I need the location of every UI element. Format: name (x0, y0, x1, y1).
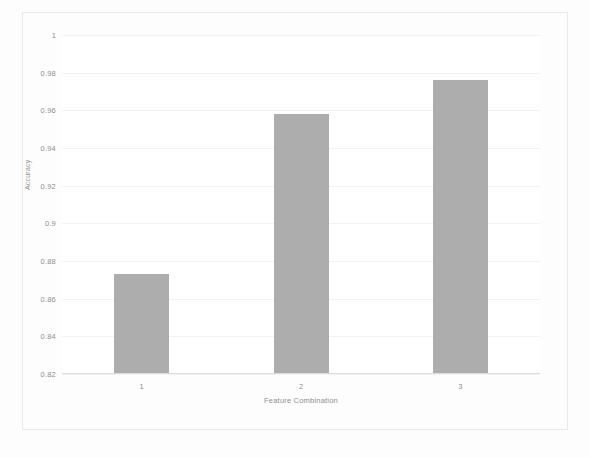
y-tick-label: 0.98 (41, 68, 56, 77)
y-tick-label: 0.86 (41, 294, 56, 303)
gridline (62, 374, 540, 375)
y-tick-label: 0.9 (45, 219, 56, 228)
x-tick-label: 1 (140, 382, 144, 391)
x-tick-label: 2 (299, 382, 303, 391)
x-tick-label: 3 (458, 382, 462, 391)
plot-area (62, 35, 540, 374)
bar (114, 274, 169, 374)
x-axis-title: Feature Combination (62, 396, 540, 405)
bar (274, 114, 329, 374)
gridline (62, 35, 540, 36)
y-tick-label: 1 (52, 31, 56, 40)
y-tick-label: 0.94 (41, 144, 56, 153)
figure-canvas: SVM(Support Vector Machine) Accuracy 10.… (0, 0, 590, 457)
y-axis-tick-labels: 10.980.960.940.920.90.880.860.840.82 (28, 35, 56, 374)
bar (433, 80, 488, 374)
y-tick-label: 0.96 (41, 106, 56, 115)
y-tick-label: 0.82 (41, 370, 56, 379)
y-tick-label: 0.88 (41, 257, 56, 266)
x-axis-line (62, 373, 540, 374)
gridline (62, 73, 540, 74)
y-tick-label: 0.92 (41, 181, 56, 190)
y-tick-label: 0.84 (41, 332, 56, 341)
